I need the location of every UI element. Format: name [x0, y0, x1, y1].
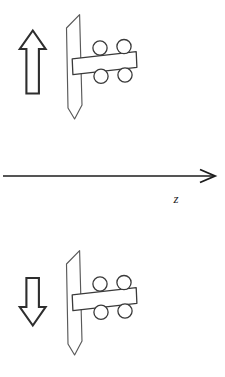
- wheel-bottom-left-upper: [94, 69, 108, 83]
- wheel-top-left-upper: [93, 41, 107, 55]
- spin-down-configuration: [20, 251, 137, 355]
- wheel-top-left-lower: [93, 277, 107, 291]
- wheel-top-right-lower: [117, 276, 131, 290]
- spin-up-configuration: [20, 15, 137, 119]
- magnetic-moment-arrow-down: [20, 278, 46, 326]
- magnetic-moment-arrow-up: [20, 31, 46, 94]
- physics-figure: z: [0, 0, 225, 377]
- wheel-bottom-left-lower: [94, 305, 108, 319]
- wheel-bottom-right-lower: [118, 304, 132, 318]
- figure-canvas: z: [0, 0, 225, 377]
- wheel-bottom-right-upper: [118, 68, 132, 82]
- z-axis-label: z: [172, 191, 178, 206]
- z-axis: z: [3, 170, 215, 207]
- wheel-top-right-upper: [117, 40, 131, 54]
